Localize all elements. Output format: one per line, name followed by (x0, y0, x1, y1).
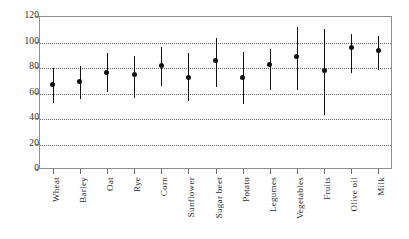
y-axis: 020406080100120 (0, 0, 39, 239)
data-point-marker (186, 75, 191, 80)
x-axis-label-text: Corn (160, 177, 169, 196)
x-axis-tick-mark (216, 169, 217, 174)
y-axis-tick-label: 80 (5, 62, 39, 72)
x-axis-tick-mark (80, 169, 81, 174)
x-axis-label-text: Sunflower (187, 177, 196, 217)
data-point-marker (159, 63, 164, 68)
data-point-marker (376, 48, 381, 53)
x-axis-label-text: Rye (133, 177, 142, 192)
x-axis-label-text: Sugar beet (215, 177, 224, 218)
error-bar (351, 34, 352, 74)
x-axis-label-text: Legumes (269, 177, 278, 212)
y-axis-tick-label: 120 (5, 11, 39, 21)
y-axis-tick-label: 20 (5, 139, 39, 149)
x-axis-tick-mark (270, 169, 271, 174)
x-axis-tick-mark (161, 169, 162, 174)
x-axis-tick-mark (188, 169, 189, 174)
data-point-marker (240, 75, 245, 80)
x-axis-label-text: Wheat (52, 177, 61, 202)
x-axis-tick-mark (243, 169, 244, 174)
x-axis-tick-mark (351, 169, 352, 174)
y-axis-tick-label: 60 (5, 88, 39, 98)
x-axis-label-text: Fruits (323, 177, 332, 200)
x-axis-tick-mark (107, 169, 108, 174)
x-axis-tick-mark (297, 169, 298, 174)
x-axis-tick-mark (53, 169, 54, 174)
x-axis-label-text: Olive oil (350, 177, 359, 211)
gridline (40, 145, 391, 146)
x-axis-tick-mark (324, 169, 325, 174)
gridline (40, 119, 391, 120)
error-bar (270, 49, 271, 90)
data-point-marker (322, 68, 327, 73)
x-axis-label-text: Oat (106, 177, 115, 191)
chart-container: 020406080100120 WheatBarleyOatRyeCornSun… (0, 0, 409, 239)
x-axis-label-text: Potato (242, 177, 251, 202)
y-axis-tick-mark (35, 169, 39, 170)
data-point-marker (132, 72, 137, 77)
y-axis-tick-label: 0 (5, 164, 39, 174)
x-axis-label-text: Milk (377, 177, 386, 196)
gridline (40, 94, 391, 95)
x-axis-tick-mark (378, 169, 379, 174)
y-axis-tick-label: 100 (5, 37, 39, 47)
x-axis-tick-mark (134, 169, 135, 174)
x-axis-label-text: Barley (79, 177, 88, 203)
x-axis-label-text: Vegetables (296, 177, 305, 219)
data-point-marker (77, 79, 82, 84)
y-axis-tick-label: 40 (5, 113, 39, 123)
error-bar (378, 36, 379, 69)
